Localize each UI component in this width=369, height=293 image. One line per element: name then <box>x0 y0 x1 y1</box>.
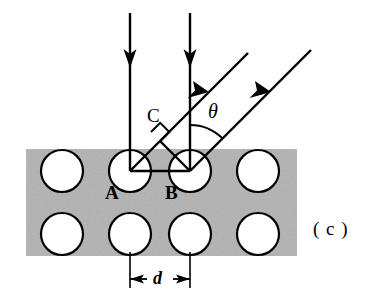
atom-circle <box>41 150 83 192</box>
diagram-canvas <box>0 0 369 293</box>
label-atom-a: A <box>105 183 119 202</box>
label-point-c: C <box>147 106 160 125</box>
atom-circle <box>41 213 83 255</box>
incident-ray-left <box>124 13 137 171</box>
label-angle-theta: θ <box>208 101 218 121</box>
label-spacing-d: d <box>153 269 162 287</box>
panel-label: ( c ) <box>313 219 349 238</box>
theta-angle-arc <box>190 125 223 139</box>
bragg-diffraction-figure: A B C θ d ( c ) <box>0 0 369 293</box>
atom-circle <box>109 213 151 255</box>
atom-circle <box>237 150 279 192</box>
label-atom-b: B <box>165 183 178 202</box>
atom-circle <box>237 213 279 255</box>
atom-circle <box>169 213 211 255</box>
